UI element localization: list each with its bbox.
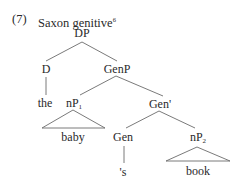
node-gen: Gen	[113, 131, 133, 143]
leaf-s: 's	[120, 166, 127, 178]
np1-base: nP	[66, 96, 79, 110]
leaf-baby: baby	[61, 131, 84, 143]
np2-triangle	[166, 147, 230, 161]
node-dp: DP	[74, 27, 89, 39]
edge-genbar-np2	[159, 111, 195, 128]
edge-dp-d	[46, 42, 82, 61]
np2-base: nP	[190, 130, 203, 144]
node-gen-bar: Gen'	[149, 98, 171, 110]
node-d: D	[42, 63, 51, 75]
node-genp: GenP	[104, 63, 131, 75]
node-np1: nP1	[66, 97, 82, 113]
node-np2: nP2	[190, 131, 206, 147]
edge-genbar-gen	[126, 111, 159, 128]
np1-subscript: 1	[79, 103, 83, 111]
np2-subscript: 2	[203, 137, 207, 145]
edge-dp-genp	[82, 42, 117, 61]
tree-edges	[0, 0, 241, 183]
edge-genp-genbar	[116, 76, 163, 96]
leaf-the: the	[38, 97, 53, 109]
edge-genp-np1	[80, 76, 116, 95]
leaf-book: book	[186, 165, 210, 177]
